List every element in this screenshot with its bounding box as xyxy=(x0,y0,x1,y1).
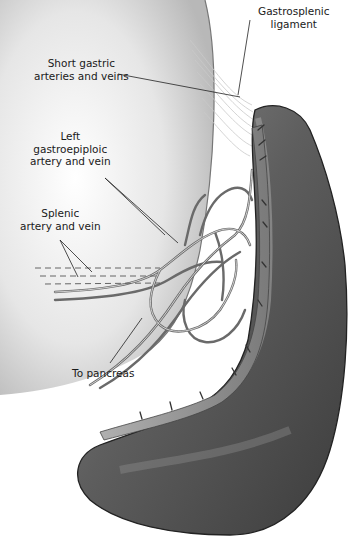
label-line: ligament xyxy=(258,18,330,31)
label-line: gastroepiploic xyxy=(30,143,111,156)
label-line: Left xyxy=(30,130,111,143)
label-line: artery and vein xyxy=(20,220,101,233)
label-line: To pancreas xyxy=(72,367,134,380)
label-line: Short gastric xyxy=(34,57,129,70)
label-line: Gastrosplenic xyxy=(258,5,330,18)
label-line: artery and vein xyxy=(30,155,111,168)
label-line: arteries and veins xyxy=(34,70,129,83)
label-left-gastroepiploic: Left gastroepiploic artery and vein xyxy=(30,130,111,168)
label-line: Splenic xyxy=(20,207,101,220)
label-to-pancreas: To pancreas xyxy=(72,367,134,380)
label-short-gastric-arteries: Short gastric arteries and veins xyxy=(34,57,129,82)
label-gastrosplenic-ligament: Gastrosplenic ligament xyxy=(258,5,330,30)
label-splenic-artery: Splenic artery and vein xyxy=(20,207,101,232)
